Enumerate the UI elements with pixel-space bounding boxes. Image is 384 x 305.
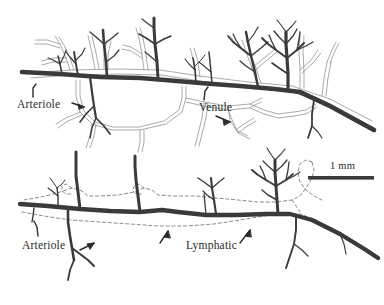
scale-bar-icon <box>308 176 374 180</box>
venule-arrow-icon <box>216 116 230 125</box>
label-venule-upper: Venule <box>199 101 232 113</box>
label-lymphatic-lower: Lymphatic <box>186 239 237 251</box>
vascular-diagram-svg <box>0 0 384 305</box>
label-arteriole-upper: Arteriole <box>17 98 60 110</box>
venule-tick-pointer-icon <box>204 87 208 100</box>
lymphatic-arrow-right-icon <box>240 230 251 243</box>
label-arteriole-lower: Arteriole <box>22 239 65 251</box>
arteriole-network-upper <box>22 18 374 138</box>
venule-network <box>31 28 372 152</box>
scale-bar-label: 1 mm <box>330 160 355 171</box>
arteriole-network-lower <box>20 148 378 280</box>
arteriole-tick-pointer-bottom-icon <box>34 221 38 236</box>
lower-panel-group <box>20 148 378 280</box>
figure-root: Arteriole Venule Arteriole Lymphatic 1 m… <box>0 0 384 305</box>
arteriole-tick-pointer-icon <box>33 84 36 97</box>
arteriole-arrow-bottom-icon <box>80 243 94 250</box>
lymphatic-arrow-left-icon <box>160 231 170 243</box>
upper-panel-group <box>22 18 374 152</box>
